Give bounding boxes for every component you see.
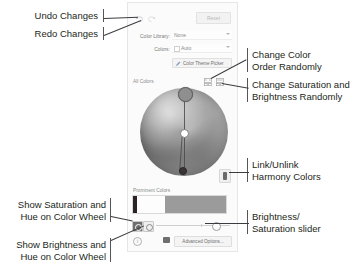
color-theme-picker-button[interactable]: Color Theme Picker [172,58,232,68]
prominent-swatch[interactable] [137,196,165,213]
annotated-screenshot: Reset Color Library: None Colors: Auto C… [0,0,362,275]
prominent-colors-label: Prominent Colors [133,188,170,193]
annotation-redo-changes: Redo Changes [14,28,98,40]
link-chain-icon [223,172,227,180]
annotation-bracket [247,158,248,182]
secondary-color-handle[interactable] [179,167,187,175]
prominent-swatch[interactable] [165,196,226,213]
palette-icon[interactable] [163,237,170,243]
colors-dropdown[interactable]: Auto [172,44,232,53]
annotation-bracket [110,198,111,222]
show-brightness-hue-button[interactable] [143,221,154,232]
brightness-hue-wheel-icon [146,224,153,231]
chevron-down-icon [226,33,230,35]
colors-label: Colors: [130,45,170,53]
brightness-saturation-slider[interactable] [156,225,230,227]
annotation-show-brightness: Show Brightness and Hue on Color Wheel [2,239,106,262]
color-library-value: None [174,32,186,38]
all-colors-label: All Colors [133,79,154,84]
annotation-bracket [247,48,248,72]
annotation-change-saturation-brightness: Change Saturation and Brightness Randoml… [252,79,362,102]
reset-button[interactable]: Reset [196,12,231,24]
annotation-leader-line [229,172,249,173]
advanced-options-button[interactable]: Advanced Options... [174,236,232,247]
color-library-dropdown[interactable]: None [172,31,232,40]
center-color-handle[interactable] [180,129,189,138]
annotation-link-unlink: Link/Unlink Harmony Colors [252,159,360,182]
colors-value: Auto [181,45,191,51]
prominent-colors-strip[interactable] [132,195,227,214]
annotation-bracket [247,210,248,234]
annotation-bracket [247,78,248,102]
slider-tick [201,224,202,227]
annotation-undo-changes: Undo Changes [14,10,98,22]
chevron-down-icon [226,46,230,48]
annotation-bracket [103,9,104,22]
color-theme-picker-label: Color Theme Picker [183,61,224,66]
eyedropper-icon [175,61,181,67]
annotation-brightness-slider: Brightness/ Saturation slider [252,211,360,234]
primary-color-handle[interactable] [178,87,193,102]
annotation-bracket [103,27,104,40]
color-theme-panel: Reset Color Library: None Colors: Auto C… [127,2,238,252]
annotation-bracket [110,238,111,262]
annotation-show-saturation: Show Saturation and Hue on Color Wheel [2,199,106,222]
color-library-label: Color Library: [130,32,170,40]
info-icon[interactable]: i [133,237,142,246]
annotation-change-color-order: Change Color Order Randomly [252,49,360,72]
redo-changes-icon[interactable] [147,15,156,23]
annotation-leader-line [205,223,249,224]
colors-swatch-preview [174,46,180,52]
